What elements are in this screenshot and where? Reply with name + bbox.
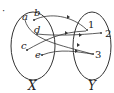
set-x-label: X: [27, 79, 37, 93]
bullet: ·: [2, 5, 5, 16]
element-3: 3: [95, 49, 101, 60]
element-2: 2: [105, 28, 111, 39]
set-x-ellipse: [11, 12, 55, 80]
element-c: c: [21, 40, 27, 51]
diagram-canvas: · a b c d e 1 2 3 X Y: [0, 0, 114, 93]
element-b: b: [34, 7, 40, 18]
mapping-diagram: · a b c d e 1 2 3 X Y: [0, 0, 114, 93]
element-e: e: [35, 49, 41, 60]
element-1: 1: [88, 19, 94, 30]
set-y-label: Y: [88, 79, 97, 93]
